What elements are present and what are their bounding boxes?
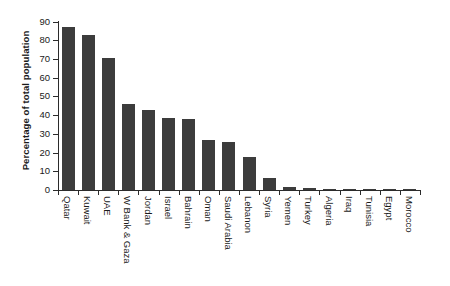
- x-axis-label: Qatar: [62, 196, 72, 220]
- x-axis-tick: [118, 191, 119, 195]
- y-axis-tick-label: 50: [0, 91, 50, 101]
- bar: [102, 58, 115, 190]
- bar: [403, 189, 416, 190]
- y-axis-tick-label: 0: [0, 185, 50, 195]
- x-axis-tick: [360, 191, 361, 195]
- bar: [62, 27, 75, 190]
- x-axis-tick: [259, 191, 260, 195]
- x-axis-tick: [279, 191, 280, 195]
- bar: [343, 189, 356, 190]
- bar: [383, 189, 396, 190]
- bar: [283, 187, 296, 190]
- x-axis-label: Kuwait: [82, 196, 92, 225]
- x-axis-label: Saudi Arabia: [223, 196, 233, 250]
- bar: [202, 140, 215, 190]
- bar: [122, 104, 135, 190]
- x-axis-tick: [58, 191, 59, 195]
- x-axis-tick: [299, 191, 300, 195]
- bar: [162, 118, 175, 190]
- y-axis-tick-label: 80: [0, 35, 50, 45]
- x-axis-tick: [239, 191, 240, 195]
- bar: [303, 188, 316, 190]
- x-axis-label: Turkey: [303, 196, 313, 225]
- y-axis-tick-label: 30: [0, 129, 50, 139]
- x-axis-label: Oman: [203, 196, 213, 222]
- bar: [222, 142, 235, 190]
- x-axis-label: Syria: [263, 196, 273, 218]
- x-axis-tick: [138, 191, 139, 195]
- y-axis-tick-label: 90: [0, 17, 50, 27]
- x-axis-tick: [159, 191, 160, 195]
- x-axis-tick: [340, 191, 341, 195]
- bar: [243, 157, 256, 190]
- x-axis-label: Tunisia: [364, 196, 374, 226]
- x-axis-tick: [219, 191, 220, 195]
- x-axis-label: Algeria: [324, 196, 334, 226]
- y-axis-tick-label: 10: [0, 166, 50, 176]
- y-axis-tick-label: 70: [0, 54, 50, 64]
- x-axis-label: Iraq: [344, 196, 354, 212]
- x-axis-label: Lebanon: [243, 196, 253, 233]
- x-axis-tick: [78, 191, 79, 195]
- bar: [263, 178, 276, 190]
- bar: [82, 35, 95, 190]
- bar-chart: Percentage of total population 010203040…: [0, 0, 450, 286]
- x-axis-label: UAE: [102, 196, 112, 216]
- x-axis-tick: [319, 191, 320, 195]
- x-axis-label: Morocco: [404, 196, 414, 232]
- bar: [363, 189, 376, 190]
- y-axis-tick-label: 40: [0, 110, 50, 120]
- x-axis-label: Egypt: [384, 196, 394, 220]
- bar: [323, 189, 336, 190]
- x-axis-tick: [400, 191, 401, 195]
- y-axis-tick-label: 20: [0, 148, 50, 158]
- x-axis-label: Jordan: [143, 196, 153, 225]
- bars-layer: [58, 15, 420, 190]
- bar: [142, 110, 155, 190]
- x-axis-label: Israel: [163, 196, 173, 219]
- x-axis-tick: [420, 191, 421, 195]
- x-axis-tick: [380, 191, 381, 195]
- x-axis-tick: [179, 191, 180, 195]
- x-axis-tick: [199, 191, 200, 195]
- x-axis-label: Bahrain: [183, 196, 193, 229]
- x-axis-label: Yemen: [283, 196, 293, 225]
- x-axis-tick: [98, 191, 99, 195]
- bar: [182, 119, 195, 190]
- x-axis-label: W Bank & Gaza: [122, 196, 132, 264]
- y-axis-tick-label: 60: [0, 73, 50, 83]
